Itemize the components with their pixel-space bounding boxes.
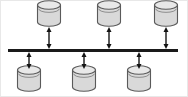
- cylinder-top-ellipse: [98, 1, 121, 9]
- connector-arrow: [47, 27, 52, 49]
- cylinder-node[interactable]: Storage node top 3: [155, 1, 178, 26]
- nodes-layer: Storage node top 1Storage node top 2Stor…: [18, 1, 178, 91]
- cylinder-node[interactable]: Storage node bottom 2: [73, 66, 96, 91]
- cylinder-node[interactable]: Storage node bottom 3: [128, 66, 151, 91]
- cylinder-top-ellipse: [155, 1, 178, 9]
- cylinder-node[interactable]: Storage node top 1: [38, 1, 61, 26]
- connector-arrow: [107, 27, 112, 49]
- connector-arrow: [164, 27, 169, 49]
- diagram-svg: Storage node top 1Storage node top 2Stor…: [0, 0, 188, 97]
- cylinder-node[interactable]: Storage node bottom 1: [18, 66, 41, 91]
- diagram-canvas: Shared bus architecture with six storage…: [0, 0, 188, 97]
- cylinder-node[interactable]: Storage node top 2: [98, 1, 121, 26]
- cylinder-top-ellipse: [38, 1, 61, 9]
- arrows-layer: [27, 27, 169, 69]
